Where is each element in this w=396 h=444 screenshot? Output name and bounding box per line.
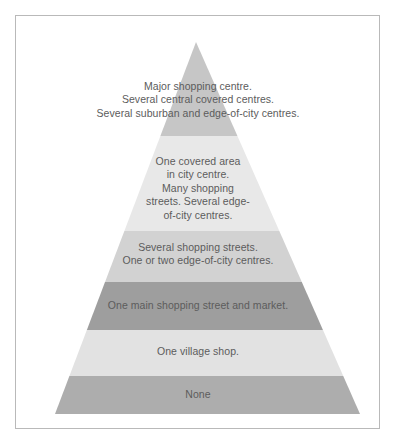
figure-root: Major shopping centre. Several central c… bbox=[0, 0, 396, 444]
pyramid-band-3-label: Several shopping streets. One or two edg… bbox=[84, 241, 312, 268]
pyramid-band-5-label: One village shop. bbox=[58, 345, 338, 358]
pyramid-band-4-label: One main shopping street and market. bbox=[66, 299, 330, 312]
pyramid-band-2-label: One covered area in city centre. Many sh… bbox=[106, 155, 290, 222]
pyramid-band-6-label: None bbox=[52, 388, 344, 401]
pyramid-band-1-label: Major shopping centre. Several central c… bbox=[48, 80, 348, 120]
pyramid-diagram: Major shopping centre. Several central c… bbox=[0, 0, 396, 444]
